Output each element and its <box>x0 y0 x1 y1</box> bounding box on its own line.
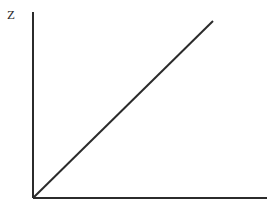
y-axis-label: Z <box>7 7 15 22</box>
chart-figure: Z <box>0 0 276 210</box>
linear-plot-svg: Z <box>0 0 276 210</box>
plot-background <box>0 0 276 210</box>
